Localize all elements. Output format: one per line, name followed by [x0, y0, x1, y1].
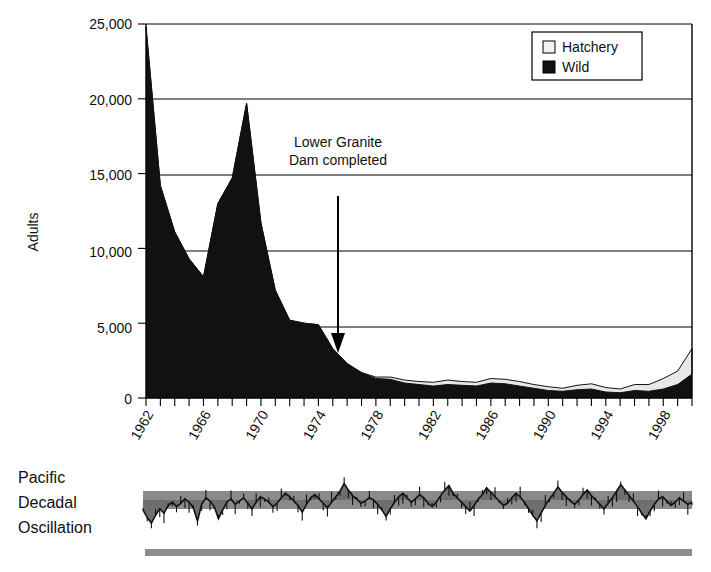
annotation-line-1: Lower Granite: [294, 134, 382, 150]
y-tick-label-10000: 10,000: [89, 244, 132, 260]
x-tick-label-text: 1986: [472, 407, 502, 442]
x-tick-marks: [146, 398, 692, 406]
x-tick-label-1970: 1970: [242, 407, 272, 442]
pdo-label-line-2: Decadal: [18, 494, 77, 511]
x-tick-label-1982: 1982: [415, 407, 445, 442]
legend-swatch-hatchery-icon: [543, 41, 555, 53]
y-tick-label-20000: 20,000: [89, 92, 132, 108]
legend-label-wild: Wild: [562, 59, 589, 75]
pdo-panel: Pacific Decadal Oscillation: [18, 469, 692, 556]
x-tick-label-text: 1974: [300, 407, 330, 442]
x-tick-label-text: 1962: [127, 407, 157, 442]
x-tick-label-1998: 1998: [644, 407, 674, 442]
area-series-wild: [146, 27, 692, 398]
x-tick-label-text: 1970: [242, 407, 272, 442]
x-tick-label-1990: 1990: [529, 407, 559, 442]
x-tick-label-text: 1998: [644, 407, 674, 442]
figure-container: 25,000 20,000 15,000 10,000 5,000 0 Adul…: [0, 0, 711, 572]
x-tick-label-text: 1994: [587, 407, 617, 442]
y-axis-title-group: Adults: [25, 213, 41, 252]
annotation-lower-granite-dam: Lower Granite Dam completed: [289, 134, 387, 353]
x-tick-label-1994: 1994: [587, 407, 617, 442]
y-axis-tick-labels: 25,000 20,000 15,000 10,000 5,000 0: [89, 16, 132, 407]
bottom-gray-bar: [145, 549, 692, 556]
x-tick-label-1966: 1966: [185, 407, 215, 442]
salmon-abundance-figure: 25,000 20,000 15,000 10,000 5,000 0 Adul…: [0, 0, 711, 572]
pdo-label-line-3: Oscillation: [18, 519, 92, 536]
x-tick-label-text: 1966: [185, 407, 215, 442]
legend-swatch-wild-icon: [543, 61, 555, 73]
y-tick-marks: [138, 24, 146, 398]
x-tick-label-text: 1990: [529, 407, 559, 442]
y-tick-label-0: 0: [124, 391, 132, 407]
legend: Hatchery Wild: [532, 32, 642, 80]
y-axis-title: Adults: [25, 213, 41, 252]
plot-area: [146, 27, 692, 398]
x-tick-label-1986: 1986: [472, 407, 502, 442]
x-tick-label-1978: 1978: [357, 407, 387, 442]
x-tick-label-text: 1978: [357, 407, 387, 442]
annotation-line-2: Dam completed: [289, 152, 387, 168]
y-tick-label-5000: 5,000: [97, 320, 132, 336]
y-tick-label-15000: 15,000: [89, 167, 132, 183]
y-tick-label-25000: 25,000: [89, 16, 132, 32]
legend-label-hatchery: Hatchery: [562, 39, 618, 55]
x-axis-tick-labels: 1962196619701974197819821986199019941998: [127, 407, 674, 442]
x-tick-label-1974: 1974: [300, 407, 330, 442]
x-tick-label-text: 1982: [415, 407, 445, 442]
x-tick-label-1962: 1962: [127, 407, 157, 442]
pdo-label-line-1: Pacific: [18, 469, 65, 486]
